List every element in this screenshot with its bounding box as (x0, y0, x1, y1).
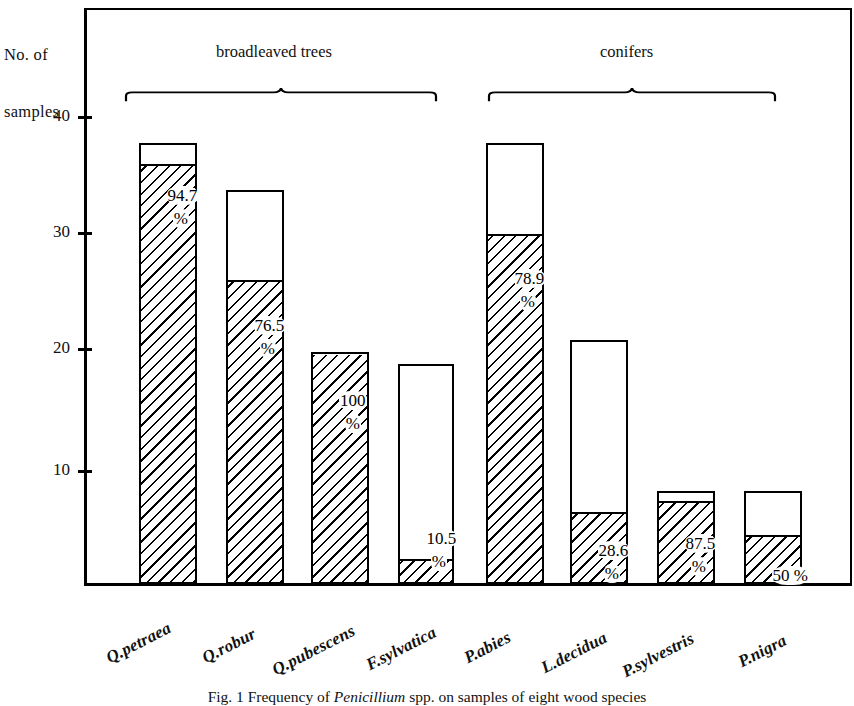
x-axis-label-f-sylvatica: F.sylvatica (363, 623, 440, 675)
y-axis-title: No. of samples (4, 7, 59, 159)
figure-penicillium-frequency: No. of samples 40 30 20 10 broadleaved t… (0, 0, 854, 706)
bar-p-nigra: 50 % (744, 491, 802, 584)
bar-q-petraea: 94.7 % (139, 143, 197, 584)
bar-segment-hatched-p-sylvestris (659, 501, 713, 582)
figure-caption: Fig. 1 Frequency of Penicillium spp. on … (0, 688, 854, 706)
y-tick-label-30: 30 (30, 222, 70, 242)
x-axis-label-l-decidua: L.decidua (538, 628, 611, 678)
y-tick-mark-30 (78, 232, 92, 235)
bar-segment-hatched-l-decidua (572, 512, 626, 582)
x-axis-label-p-abies: P.abies (461, 628, 514, 668)
bar-segment-hatched-f-sylvatica (400, 559, 452, 582)
x-axis-label-q-robur: Q.robur (199, 624, 259, 668)
y-tick-mark-40 (78, 116, 92, 119)
x-axis-label-p-sylvestris: P.sylvestris (619, 629, 698, 682)
figure-caption-genus: Penicillium (334, 688, 405, 705)
bar-segment-hatched-p-abies (488, 234, 542, 582)
bar-segment-hatched-p-nigra (746, 535, 800, 582)
x-axis-label-q-petraea: Q.petraea (103, 618, 175, 668)
group-label-conifers: conifers (600, 42, 653, 62)
x-axis-label-q-pubescens: Q.pubescens (269, 621, 359, 680)
y-tick-label-20: 20 (30, 338, 70, 358)
bar-segment-hatched-q-pubescens (313, 355, 367, 582)
figure-caption-suffix: spp. on samples of eight wood species (405, 688, 646, 705)
bar-segment-hatched-q-petraea (141, 164, 195, 582)
bar-f-sylvatica: 10.5 % (398, 364, 454, 584)
bar-l-decidua: 28.6 % (570, 340, 628, 584)
bar-q-robur: 76.5 % (226, 190, 284, 584)
x-axis-label-p-nigra: P.nigra (735, 631, 790, 672)
y-tick-mark-10 (78, 470, 92, 473)
group-bracket-broadleaved (124, 88, 438, 102)
figure-caption-prefix: Fig. 1 Frequency of (208, 688, 334, 705)
bar-percent-value-f-sylvatica: 10.5 (426, 529, 458, 548)
y-tick-label-10: 10 (30, 460, 70, 480)
bar-p-abies: 78.9 % (486, 143, 544, 584)
bar-p-sylvestris: 87.5 % (657, 491, 715, 584)
bar-segment-hatched-q-robur (228, 280, 282, 582)
group-bracket-conifers (487, 88, 777, 102)
group-label-broadleaved: broadleaved trees (216, 42, 332, 62)
y-tick-label-40: 40 (30, 106, 70, 126)
bar-q-pubescens: 100 % (311, 352, 369, 584)
y-axis-title-line1: No. of (4, 45, 59, 64)
y-tick-mark-20 (78, 348, 92, 351)
